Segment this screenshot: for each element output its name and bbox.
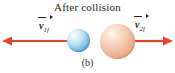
after-collision-figure: After collision v1f v2f (b) <box>0 0 175 73</box>
vector-arrowhead-icon <box>50 15 53 19</box>
velocity-label-v1f: v1f <box>39 20 49 34</box>
velocity-label-v2f: v2f <box>135 19 145 33</box>
blue-ball <box>67 29 90 52</box>
right-velocity-arrow <box>134 37 173 46</box>
vector-arrowhead-icon <box>146 14 149 18</box>
velocity-subscript-1f: 1f <box>43 26 48 34</box>
figure-caption: (b) <box>0 57 175 68</box>
velocity-subscript-2f: 2f <box>139 25 144 33</box>
vector-symbol-v1: v <box>39 20 43 31</box>
orange-ball <box>100 24 135 59</box>
left-velocity-arrow <box>2 37 70 46</box>
vector-symbol-v2: v <box>135 19 139 30</box>
